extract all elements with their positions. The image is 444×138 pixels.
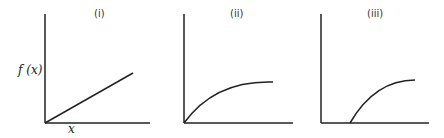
- panel-2-curve: [184, 82, 273, 123]
- panel-3-title: (iii): [367, 8, 383, 19]
- panel-2-title: (ii): [230, 8, 243, 19]
- diagram-canvas: [0, 0, 444, 138]
- x-axis-label: x: [68, 122, 75, 136]
- y-axis-label: f (x): [18, 63, 42, 77]
- panel-1-curve: [45, 73, 133, 123]
- panel-1-title: (i): [94, 8, 105, 19]
- panel-3-curve: [350, 80, 415, 123]
